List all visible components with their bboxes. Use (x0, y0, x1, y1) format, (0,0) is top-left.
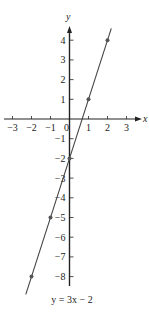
y-tick-label: −5 (55, 212, 66, 223)
y-tick-label: −6 (55, 232, 66, 243)
equation-caption: y = 3x − 2 (51, 294, 92, 305)
y-tick-label: 4 (61, 35, 66, 46)
y-axis-arrow-icon (67, 26, 72, 33)
data-point-marker (30, 275, 34, 279)
axes (4, 26, 142, 286)
y-axis-label: y (65, 11, 71, 22)
x-tick-label: −2 (26, 122, 37, 133)
y-tick-label: −2 (55, 153, 66, 164)
x-tick-label: 2 (105, 122, 110, 133)
x-tick-label: −1 (45, 122, 56, 133)
x-tick-label: 3 (124, 122, 129, 133)
data-point-marker (68, 156, 72, 160)
x-tick-label: 1 (86, 122, 91, 133)
data-point-marker (87, 97, 91, 101)
y-tick-label: −8 (55, 271, 66, 282)
plot-line (26, 28, 112, 294)
data-point-marker (49, 216, 53, 220)
graph: −3−2−10123−8−7−6−5−4−3−2−11234 y x y = 3… (0, 0, 149, 312)
y-tick-label: −1 (55, 133, 66, 144)
x-tick-label: 0 (64, 122, 69, 133)
function-line (26, 28, 112, 294)
y-tick-label: 1 (61, 94, 66, 105)
data-point-marker (106, 38, 110, 42)
x-axis-arrow-icon (135, 117, 142, 122)
y-tick-label: 2 (61, 74, 66, 85)
x-tick-label: −3 (7, 122, 18, 133)
x-axis-label: x (142, 113, 148, 124)
y-tick-label: 3 (61, 54, 66, 65)
y-tick-label: −7 (55, 251, 66, 262)
